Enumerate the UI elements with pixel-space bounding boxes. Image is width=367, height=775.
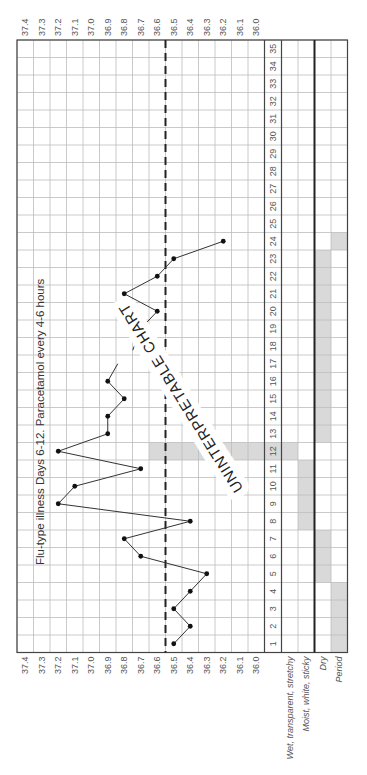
temp-tick-label: 37.2: [53, 657, 63, 675]
shaded-cell: [315, 390, 332, 408]
temperature-point: [122, 291, 127, 296]
shaded-cell: [331, 618, 348, 636]
temperature-point: [171, 256, 176, 261]
day-number: 10: [268, 481, 278, 491]
day-number: 1: [268, 641, 278, 646]
temperature-point: [72, 484, 77, 489]
temperature-point: [155, 309, 160, 314]
day-number: 34: [268, 61, 278, 71]
temperature-point: [221, 239, 226, 244]
day-number: 30: [268, 131, 278, 141]
day-number: 6: [268, 554, 278, 559]
day-number: 25: [268, 219, 278, 229]
temp-tick-label: 36.1: [235, 18, 245, 36]
temp-tick-label: 36.1: [235, 657, 245, 675]
temp-tick-label: 37.2: [53, 18, 63, 36]
temp-tick-label: 36.4: [185, 657, 195, 675]
day-number: 21: [268, 289, 278, 299]
temperature-point: [56, 449, 61, 454]
observation-row-label: Period: [334, 656, 344, 683]
day-number: 33: [268, 79, 278, 89]
temp-tick-label: 36.0: [251, 657, 261, 675]
temp-tick-label: 36.9: [103, 18, 113, 36]
temp-tick-label: 36.2: [218, 18, 228, 36]
illness-annotation: Flu-type illness Days 6-12. Paracetamol …: [34, 278, 46, 565]
fertility-temperature-chart: 37.437.437.337.337.237.237.137.137.037.0…: [0, 0, 367, 775]
day-number: 22: [268, 271, 278, 281]
temp-tick-label: 36.8: [119, 657, 129, 675]
shaded-cell: [315, 548, 332, 566]
shaded-cell: [315, 355, 332, 373]
day-number: 23: [268, 254, 278, 264]
observation-row-label: Moist, white, sticky: [301, 656, 311, 732]
day-number: 12: [268, 446, 278, 456]
temperature-point: [171, 641, 176, 646]
day-number: 8: [268, 519, 278, 524]
shaded-cell: [315, 285, 332, 303]
temp-tick-label: 37.1: [70, 18, 80, 36]
temperature-point: [122, 396, 127, 401]
temperature-point: [188, 624, 193, 629]
temperature-point: [138, 466, 143, 471]
temp-tick-label: 36.4: [185, 18, 195, 36]
temp-tick-label: 36.7: [136, 657, 146, 675]
day-number: 14: [268, 411, 278, 421]
temp-tick-label: 36.5: [169, 18, 179, 36]
day-number: 2: [268, 624, 278, 629]
shaded-cell: [315, 268, 332, 286]
day-number: 18: [268, 341, 278, 351]
temperature-point: [188, 589, 193, 594]
temp-tick-label: 36.6: [152, 657, 162, 675]
shaded-cell: [331, 635, 348, 653]
shaded-cell: [331, 233, 348, 251]
day-number: 20: [268, 306, 278, 316]
temperature-point: [122, 536, 127, 541]
temperature-point: [105, 414, 110, 419]
day-number: 11: [268, 464, 278, 473]
chart-canvas: 37.437.437.337.337.237.237.137.137.037.0…: [0, 0, 367, 775]
temp-tick-label: 36.6: [152, 18, 162, 36]
day-number: 24: [268, 236, 278, 246]
temp-tick-label: 36.7: [136, 18, 146, 36]
uninterpretable-stamp: UNINTERPRETABLE CHART: [115, 300, 246, 496]
temperature-point: [105, 431, 110, 436]
day-number: 16: [268, 376, 278, 386]
temp-tick-label: 37.3: [37, 18, 47, 36]
shaded-cell: [282, 443, 299, 461]
temperature-point: [105, 379, 110, 384]
day-number: 35: [268, 44, 278, 54]
temperature-point: [171, 606, 176, 611]
shaded-cell: [298, 478, 315, 496]
shaded-cell: [315, 250, 332, 268]
day-number: 27: [268, 184, 278, 194]
day-number: 31: [268, 114, 278, 124]
temp-tick-label: 37.4: [20, 657, 30, 675]
temp-tick-label: 37.3: [37, 657, 47, 675]
day-number: 26: [268, 201, 278, 211]
day-number: 5: [268, 571, 278, 576]
day-number: 17: [268, 359, 278, 369]
temp-tick-label: 36.8: [119, 18, 129, 36]
temperature-point: [138, 554, 143, 559]
observation-row-label: Wet, transparent, stretchy: [285, 656, 295, 759]
shaded-cell: [315, 303, 332, 321]
temperature-point: [204, 571, 209, 576]
shaded-cell: [315, 373, 332, 391]
shaded-cell: [298, 513, 315, 531]
temp-tick-label: 36.2: [218, 657, 228, 675]
temperature-point: [155, 274, 160, 279]
shaded-cell: [331, 600, 348, 618]
day-number: 13: [268, 429, 278, 439]
day-number: 29: [268, 149, 278, 159]
day-number: 4: [268, 589, 278, 594]
day-number: 3: [268, 606, 278, 611]
shaded-cell: [315, 565, 332, 583]
temperature-point: [188, 519, 193, 524]
day-number: 19: [268, 324, 278, 334]
temp-tick-label: 36.3: [202, 18, 212, 36]
day-number: 32: [268, 96, 278, 106]
temp-tick-label: 37.4: [20, 18, 30, 36]
temp-tick-label: 37.0: [86, 657, 96, 675]
shaded-cell: [315, 425, 332, 443]
shaded-cell: [315, 530, 332, 548]
